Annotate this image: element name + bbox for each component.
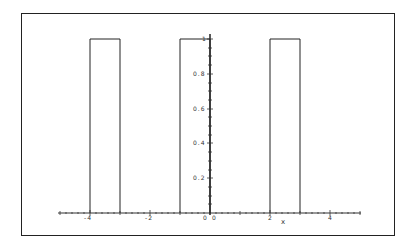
y-tick-label: 0.2 xyxy=(193,174,206,181)
bar-3 xyxy=(270,39,300,213)
x-tick-label: -4 xyxy=(84,214,92,221)
bar-1 xyxy=(90,39,120,213)
y-tick-label: 1 xyxy=(202,35,207,42)
y-tick-label: 0.4 xyxy=(193,139,206,146)
x-tick-label: 2 xyxy=(268,214,273,221)
origin-label: 0 xyxy=(203,214,208,221)
x-tick-label: -2 xyxy=(145,214,153,221)
y-tick-label: 0.6 xyxy=(193,105,206,112)
x-axis-label: x xyxy=(281,218,285,226)
chart-canvas: -4 -2 0 2 4 0.2 0.4 0.6 0.8 1 0 x xyxy=(0,0,414,249)
y-tick-label: 0.8 xyxy=(193,70,206,77)
bars xyxy=(90,39,300,213)
x-tick-label: 0 xyxy=(212,214,217,221)
bar-2 xyxy=(180,39,210,213)
x-tick-label: 4 xyxy=(328,214,333,221)
